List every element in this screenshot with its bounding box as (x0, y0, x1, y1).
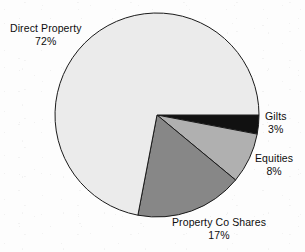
slice-label-value: 3% (265, 123, 287, 136)
slice-label-property-co-shares: Property Co Shares 17% (172, 216, 266, 242)
slice-label-name: Gilts (265, 110, 287, 123)
slice-label-value: 72% (10, 35, 82, 48)
slice-label-value: 17% (172, 229, 266, 242)
slice-label-name: Direct Property (10, 22, 82, 35)
slice-label-name: Property Co Shares (172, 216, 266, 229)
slice-label-equities: Equities 8% (255, 152, 293, 178)
slice-label-name: Equities (255, 152, 293, 165)
pie-chart-figure: Direct Property 72% Gilts 3% Equities 8%… (0, 0, 305, 252)
pie-slice-group (55, 13, 259, 217)
slice-label-value: 8% (255, 165, 293, 178)
slice-label-gilts: Gilts 3% (265, 110, 287, 136)
slice-label-direct-property: Direct Property 72% (10, 22, 82, 48)
